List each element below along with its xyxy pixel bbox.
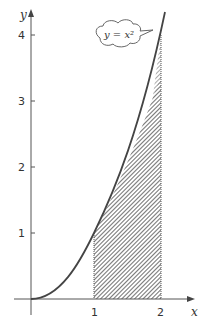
x-axis-arrow-icon — [187, 296, 195, 302]
equation-bubble: y = x² — [96, 20, 153, 47]
chart: y = x² 1 2 3 4 1 2 x y — [0, 0, 209, 327]
y-axis — [28, 9, 34, 315]
y-ticks — [31, 35, 35, 233]
y-tick-label-2: 2 — [18, 161, 25, 174]
x-axis-label: x — [191, 305, 198, 319]
y-axis-arrow-icon — [28, 9, 34, 17]
bubble-equation-label: y = x² — [103, 29, 134, 40]
y-axis-label: y — [19, 8, 27, 22]
y-tick-label-4: 4 — [18, 29, 25, 42]
x-tick-label-1: 1 — [91, 306, 98, 319]
y-tick-label-1: 1 — [18, 227, 25, 240]
x-tick-label-2: 2 — [157, 306, 164, 319]
y-tick-label-3: 3 — [18, 95, 25, 108]
